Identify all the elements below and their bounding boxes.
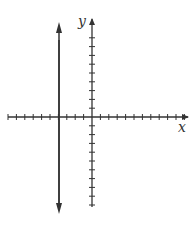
y-axis-label: y [78,13,86,29]
coordinate-plane [0,0,196,227]
vertical-line [56,22,62,214]
x-axis [8,114,188,120]
x-axis-label: x [178,119,186,135]
y-axis [89,19,95,207]
